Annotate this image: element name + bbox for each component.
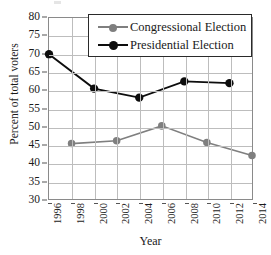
x-tick-mark [230, 203, 234, 204]
y-tick-label: 40 [29, 158, 41, 170]
y-tick-mark [42, 145, 47, 146]
x-tick-mark [116, 203, 120, 204]
y-tick-label: 60 [29, 84, 41, 96]
gridline-horizontal [49, 146, 252, 147]
x-tick-label: 2004 [144, 203, 155, 224]
y-tick-label: 45 [29, 139, 41, 151]
x-tick-mark [207, 203, 211, 204]
series-line [72, 126, 252, 156]
y-tick-mark [42, 126, 47, 127]
y-tick-label: 30 [29, 194, 41, 206]
legend-marker-presidential-icon [96, 38, 130, 52]
x-axis-title: Year [48, 234, 253, 249]
y-tick-mark [42, 181, 47, 182]
gridline-horizontal [49, 128, 252, 129]
gridline-horizontal [49, 91, 252, 92]
x-tick-mark [253, 203, 257, 204]
y-tick-label: 35 [29, 176, 41, 188]
x-tick-label: 1996 [53, 203, 64, 224]
x-tick-label: 2006 [167, 203, 178, 224]
x-tick-mark [185, 203, 189, 204]
legend-entry-presidential: Presidential Election [89, 36, 251, 54]
legend-label-presidential: Presidential Election [130, 39, 234, 52]
x-tick-mark [162, 203, 166, 204]
y-tick-label: 50 [29, 121, 41, 133]
y-tick-label: 55 [29, 103, 41, 115]
x-tick-label: 2002 [121, 203, 132, 224]
legend-label-congressional: Congressional Election [130, 21, 246, 34]
x-tick-label: 2008 [190, 203, 201, 224]
x-tick-label: 2000 [99, 203, 110, 224]
x-tick-mark [94, 203, 98, 204]
chart-legend: Congressional Election Presidential Elec… [88, 14, 252, 57]
y-tick-label: 70 [29, 48, 41, 60]
gridline-vertical [72, 18, 73, 199]
gridline-horizontal [49, 73, 252, 74]
x-tick-label: 2012 [235, 203, 246, 224]
y-tick-mark [42, 35, 47, 36]
top-edge-artifact [54, 1, 61, 4]
y-tick-label: 65 [29, 66, 41, 78]
gridline-horizontal [49, 183, 252, 184]
y-tick-label: 75 [29, 30, 41, 42]
y-tick-mark [42, 17, 47, 18]
x-tick-mark [48, 203, 52, 204]
y-tick-label: 80 [29, 11, 41, 23]
y-axis-tick-labels: 8075706560555045403530 [0, 17, 44, 200]
y-tick-mark [42, 108, 47, 109]
legend-entry-congressional: Congressional Election [89, 18, 251, 36]
data-point-marker [248, 152, 256, 160]
x-tick-label: 1998 [76, 203, 87, 224]
x-axis-tick-labels: 1996199820002002200420062008201020122014 [48, 200, 253, 234]
chart-figure: Percent of total voters 8075706560555045… [0, 0, 271, 255]
x-tick-mark [139, 203, 143, 204]
y-tick-mark [42, 200, 47, 201]
data-point-marker [180, 77, 188, 85]
x-tick-mark [71, 203, 75, 204]
y-tick-mark [42, 163, 47, 164]
legend-marker-congressional-icon [96, 20, 130, 34]
gridline-horizontal [49, 164, 252, 165]
gridline-horizontal [49, 110, 252, 111]
y-tick-mark [42, 71, 47, 72]
data-point-marker [225, 79, 233, 87]
y-tick-mark [42, 90, 47, 91]
x-tick-label: 2014 [258, 203, 269, 224]
x-tick-label: 2010 [212, 203, 223, 224]
